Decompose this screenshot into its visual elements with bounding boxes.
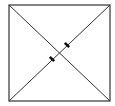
diagram-canvas: [0, 0, 115, 106]
tick-mark-upper: [65, 43, 69, 47]
tick-mark-lower: [50, 57, 54, 61]
square-diagonals-diagram: [0, 0, 115, 106]
